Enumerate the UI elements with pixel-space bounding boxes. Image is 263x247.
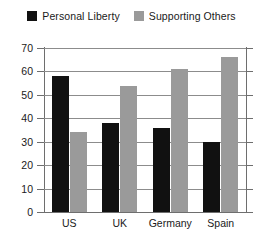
y-axis-tick-label: 40 [3,113,33,124]
y-axis-tick-label: 10 [3,183,33,194]
y-axis-tick-mark [37,142,44,143]
y-axis-tick-mark [37,95,44,96]
y-axis-tick-label: 0 [3,207,33,218]
x-axis-label-spain: Spain [207,218,234,229]
y-axis-tick-mark [37,165,44,166]
y-axis-tick-label: 20 [3,160,33,171]
y-axis-tick-label: 50 [3,90,33,101]
y-axis-tick-mark [37,212,44,213]
legend-item-supporting-others[interactable]: Supporting Others [134,11,236,22]
right-axis-tick-mark [246,142,253,143]
x-axis-label-germany: Germany [149,218,192,229]
bars-layer [44,48,246,212]
bar-spain-supporting-others[interactable] [221,57,238,212]
bar-germany-supporting-others[interactable] [171,69,188,212]
y-axis-tick-mark [37,189,44,190]
right-axis-tick-mark [246,212,253,213]
bar-uk-personal-liberty[interactable] [102,123,119,212]
legend-label-personal-liberty: Personal Liberty [42,11,119,22]
bar-uk-supporting-others[interactable] [120,86,137,213]
x-axis-label-us: US [62,218,77,229]
y-axis-tick-label: 30 [3,136,33,147]
y-axis-tick-label: 70 [3,43,33,54]
chart-legend: Personal Liberty Supporting Others [0,11,263,22]
y-axis-tick-label: 60 [3,66,33,77]
x-axis-label-uk: UK [112,218,127,229]
right-axis-tick-mark [246,71,253,72]
legend-swatch-supporting-others [134,11,144,21]
legend-item-personal-liberty[interactable]: Personal Liberty [27,11,119,22]
bar-spain-personal-liberty[interactable] [203,142,220,212]
y-axis-tick-mark [37,118,44,119]
bar-germany-personal-liberty[interactable] [153,128,170,212]
plot-area [44,48,246,212]
bar-us-personal-liberty[interactable] [52,76,69,212]
bar-chart: Personal Liberty Supporting Others 01020… [0,0,263,247]
y-axis-tick-mark [37,48,44,49]
bar-group [102,48,137,212]
y-axis-tick-labels: 010203040506070 [0,0,33,247]
x-axis-line [37,212,253,213]
y-axis-tick-mark [37,71,44,72]
bar-us-supporting-others[interactable] [70,132,87,212]
right-axis-tick-mark [246,118,253,119]
x-axis-category-labels: USUKGermanySpain [44,218,246,238]
right-axis-tick-mark [246,165,253,166]
legend-label-supporting-others: Supporting Others [149,11,236,22]
right-axis-tick-mark [246,48,253,49]
right-axis-tick-mark [246,95,253,96]
bar-group [203,48,238,212]
bar-group [153,48,188,212]
bar-group [52,48,87,212]
right-axis-tick-mark [246,189,253,190]
